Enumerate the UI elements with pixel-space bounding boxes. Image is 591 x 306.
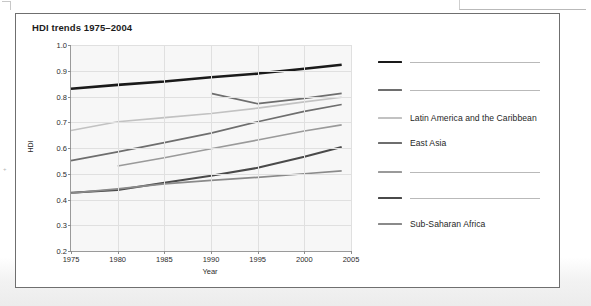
- y-tick-mark: [68, 174, 71, 175]
- x-tick-label: 1995: [249, 255, 266, 264]
- figure-container: HDI trends 1975–2004 HDI Year 0.20.30.40…: [15, 13, 560, 288]
- figure-title: HDI trends 1975–2004: [32, 22, 132, 33]
- x-tick-label: 1985: [156, 255, 173, 264]
- page-corner-mark-left: [2, 1, 11, 10]
- y-tick-label: 0.5: [57, 169, 67, 178]
- x-tick-label: 1990: [203, 255, 220, 264]
- y-tick-label: 0.8: [57, 92, 67, 101]
- legend-swatch-icon: [378, 89, 402, 91]
- legend-swatch-icon: [378, 117, 402, 119]
- y-axis-title: HDI: [27, 140, 34, 152]
- legend-swatch-icon: [378, 171, 402, 173]
- legend-label: Latin America and the Caribbean: [410, 113, 537, 123]
- x-tick-mark: [258, 251, 259, 254]
- x-gridline: [258, 45, 259, 251]
- y-tick-mark: [68, 122, 71, 123]
- series-line-3: [71, 97, 342, 130]
- x-axis-title: Year: [202, 267, 217, 276]
- legend-swatch-icon: [378, 61, 402, 64]
- x-tick-label: 1980: [109, 255, 126, 264]
- x-tick-label: 2005: [343, 255, 360, 264]
- y-tick-mark: [68, 45, 71, 46]
- x-tick-mark: [211, 251, 212, 254]
- series-line-4: [71, 104, 342, 160]
- x-gridline: [211, 45, 212, 251]
- x-tick-label: 1975: [63, 255, 80, 264]
- legend-item[interactable]: East Asia: [378, 137, 446, 149]
- y-tick-label: 0.7: [57, 118, 67, 127]
- legend-item[interactable]: [378, 166, 540, 178]
- legend-blank-rule[interactable]: [410, 62, 540, 63]
- x-tick-label: 2000: [296, 255, 313, 264]
- y-tick-label: 0.3: [57, 221, 67, 230]
- x-gridline: [351, 45, 352, 251]
- x-tick-mark: [164, 251, 165, 254]
- y-tick-mark: [68, 71, 71, 72]
- y-tick-label: 0.6: [57, 144, 67, 153]
- page-margin-mark: +: [3, 166, 7, 172]
- x-gridline: [304, 45, 305, 251]
- x-gridline: [164, 45, 165, 251]
- legend-item[interactable]: [378, 84, 540, 96]
- x-gridline: [118, 45, 119, 251]
- legend-item[interactable]: [378, 192, 540, 204]
- legend-swatch-icon: [378, 223, 402, 225]
- x-tick-mark: [71, 251, 72, 254]
- legend-blank-rule[interactable]: [410, 172, 540, 173]
- x-tick-mark: [351, 251, 352, 254]
- y-tick-mark: [68, 225, 71, 226]
- page-corner-rule-right: [459, 0, 586, 10]
- y-tick-label: 0.9: [57, 66, 67, 75]
- plot-area: 0.20.30.40.50.60.70.80.91.01975198019851…: [70, 45, 351, 252]
- x-tick-mark: [118, 251, 119, 254]
- y-tick-label: 1.0: [57, 41, 67, 50]
- legend-item[interactable]: Sub-Saharan Africa: [378, 218, 485, 230]
- legend-item[interactable]: Latin America and the Caribbean: [378, 112, 537, 124]
- series-line-2: [211, 93, 342, 103]
- legend-item[interactable]: [378, 56, 540, 68]
- legend-label: Sub-Saharan Africa: [410, 219, 485, 229]
- x-tick-mark: [304, 251, 305, 254]
- y-tick-mark: [68, 97, 71, 98]
- y-tick-mark: [68, 200, 71, 201]
- plot-wrapper: HDI Year 0.20.30.40.50.60.70.80.91.01975…: [32, 41, 372, 281]
- legend-blank-rule[interactable]: [410, 198, 540, 199]
- y-tick-mark: [68, 148, 71, 149]
- legend-label: East Asia: [410, 138, 446, 148]
- y-tick-label: 0.4: [57, 195, 67, 204]
- series-line-1: [71, 65, 342, 89]
- legend-swatch-icon: [378, 197, 402, 200]
- legend-blank-rule[interactable]: [410, 90, 540, 91]
- legend-swatch-icon: [378, 142, 402, 144]
